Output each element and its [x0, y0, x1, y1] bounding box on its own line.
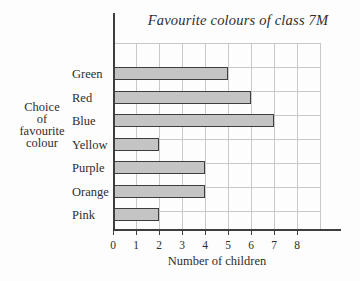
chart-title: Favourite colours of class 7M	[123, 12, 353, 29]
bar-green	[113, 67, 228, 80]
x-tick	[274, 231, 275, 236]
category-label: Blue	[72, 113, 96, 128]
x-tick	[251, 231, 252, 236]
category-label: Pink	[72, 207, 95, 222]
chart-figure: Favourite colours of class 7M Choiceoffa…	[0, 0, 360, 281]
x-tick	[228, 231, 229, 236]
category-label: Yellow	[72, 137, 108, 152]
x-tick	[205, 231, 206, 236]
x-tick-label: 4	[195, 239, 215, 251]
x-tick-label: 3	[172, 239, 192, 251]
x-tick	[182, 231, 183, 236]
bar-orange	[113, 185, 205, 198]
gridline-horizontal	[113, 43, 320, 44]
x-tick	[136, 231, 137, 236]
bar-pink	[113, 208, 159, 221]
category-label: Purple	[72, 160, 105, 175]
gridline-vertical	[320, 43, 321, 229]
y-axis-title-line: colour	[8, 137, 76, 149]
x-tick-label: 8	[287, 239, 307, 251]
x-tick	[297, 231, 298, 236]
category-label: Red	[72, 90, 92, 105]
x-tick-label: 5	[218, 239, 238, 251]
x-tick-label: 7	[264, 239, 284, 251]
y-axis-title: Choiceoffavouritecolour	[8, 101, 76, 149]
x-tick	[159, 231, 160, 236]
bar-red	[113, 91, 251, 104]
x-axis-line	[113, 229, 341, 231]
x-tick-label: 1	[126, 239, 146, 251]
x-axis-title: Number of children	[113, 254, 321, 269]
x-tick	[113, 231, 114, 236]
category-label: Orange	[72, 184, 109, 199]
plot-area	[113, 43, 321, 229]
gridline-vertical	[228, 43, 229, 229]
bar-yellow	[113, 138, 159, 151]
category-label: Green	[72, 66, 103, 81]
gridline-vertical	[297, 43, 298, 229]
x-tick-label: 2	[149, 239, 169, 251]
bar-blue	[113, 114, 274, 127]
gridline-vertical	[274, 43, 275, 229]
y-axis-line	[113, 13, 115, 229]
gridline-vertical	[251, 43, 252, 229]
bar-purple	[113, 161, 205, 174]
x-tick-label: 6	[241, 239, 261, 251]
x-tick-label: 0	[103, 239, 123, 251]
